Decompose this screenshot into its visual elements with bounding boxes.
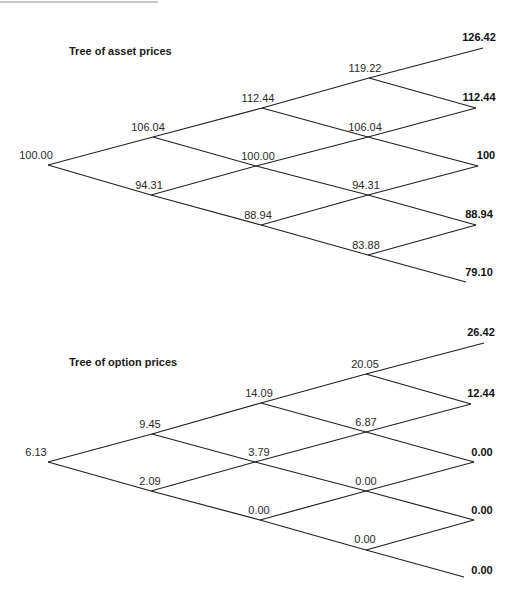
- asset-edge: [256, 166, 368, 195]
- asset-terminal-value: 112.44: [462, 91, 495, 103]
- asset-edge: [369, 48, 483, 78]
- option-edge: [255, 462, 366, 491]
- option-edge: [366, 374, 471, 404]
- option-edge: [48, 434, 152, 462]
- option-edge: [260, 520, 366, 550]
- option-node-value: 6.87: [355, 416, 376, 428]
- option-terminal-value: 26.42: [467, 326, 495, 338]
- option-terminal-value: 12.44: [467, 387, 495, 399]
- asset-terminal-value: 79.10: [465, 266, 493, 278]
- option-terminal-value: 0.00: [471, 564, 492, 576]
- option-terminal-value: 0.00: [471, 504, 492, 516]
- option-edge: [255, 432, 366, 462]
- option-node-value: 0.00: [248, 504, 269, 516]
- asset-node-value: 106.04: [348, 121, 382, 133]
- asset-edge: [262, 78, 369, 108]
- option-edge: [152, 403, 261, 434]
- asset-edge: [368, 255, 466, 282]
- asset-terminal-value: 88.94: [465, 208, 493, 220]
- asset-edge: [368, 195, 476, 225]
- option-edge: [151, 462, 255, 491]
- asset-node-value: 119.22: [349, 62, 382, 74]
- option-edge: [48, 462, 151, 491]
- option-edge: [366, 550, 464, 577]
- option-edge: [366, 432, 474, 462]
- asset-edge: [368, 108, 476, 137]
- asset-edge: [368, 137, 478, 166]
- option-node-value: 3.79: [248, 446, 269, 458]
- option-node-value: 14.09: [245, 387, 273, 399]
- asset-edge: [369, 78, 476, 108]
- option-node-value: 0.00: [354, 533, 375, 545]
- option-edge: [366, 343, 484, 374]
- asset-node-value: 100.00: [241, 150, 275, 162]
- asset-terminal-value: 100: [477, 149, 495, 161]
- option-edge: [261, 374, 366, 403]
- asset-edge: [48, 137, 153, 165]
- option-node-value: 20.05: [351, 358, 379, 370]
- asset-edge: [151, 166, 256, 195]
- option-edge: [260, 491, 366, 520]
- asset-edge: [153, 108, 262, 137]
- option-node-value: 9.45: [139, 418, 160, 430]
- asset-node-value: 83.88: [352, 239, 380, 251]
- asset-node-value: 100.00: [19, 149, 53, 161]
- asset-node-value: 94.31: [135, 179, 163, 191]
- option-edge: [366, 462, 474, 491]
- asset-node-value: 94.31: [352, 179, 380, 191]
- option-tree-edges: [48, 343, 484, 577]
- asset-node-value: 112.44: [242, 92, 275, 104]
- option-edge: [151, 491, 260, 520]
- asset-tree-edges: [48, 48, 483, 282]
- option-node-value: 2.09: [139, 475, 160, 487]
- option-node-value: 6.13: [25, 446, 46, 458]
- asset-terminal-value: 126.42: [462, 31, 496, 43]
- asset-node-value: 88.94: [244, 209, 272, 221]
- asset-edge: [261, 195, 368, 225]
- option-edge: [261, 403, 366, 432]
- option-edge: [366, 491, 474, 520]
- option-edge: [366, 520, 474, 550]
- asset-edge: [368, 225, 476, 255]
- option-node-value: 0.00: [355, 475, 376, 487]
- option-terminal-value: 0.00: [471, 446, 492, 458]
- option-edge: [152, 434, 255, 462]
- option-edge: [366, 404, 471, 432]
- asset-edge: [368, 166, 478, 195]
- asset-node-value: 106.04: [131, 121, 165, 133]
